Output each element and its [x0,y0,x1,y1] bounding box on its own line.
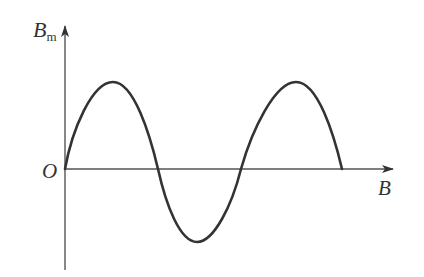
origin-label: O [42,159,57,183]
y-axis-label: Bm [33,17,57,44]
y-axis-subscript: m [46,29,56,44]
sine-curve [65,82,342,242]
sine-wave-diagram: Bm O B [0,0,424,277]
x-axis-label: B [378,176,391,200]
